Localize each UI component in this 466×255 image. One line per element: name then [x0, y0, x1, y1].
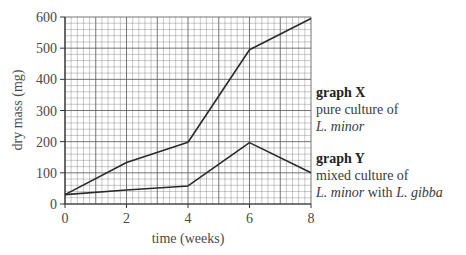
x-tick-label: 4 [185, 211, 192, 226]
legend-graph-x-species: L. minor [316, 119, 364, 134]
y-tick-label: 100 [36, 166, 57, 181]
legend-graph-y-title: graph Y [316, 150, 443, 167]
y-tick-label: 200 [36, 135, 57, 150]
x-tick-label: 0 [62, 211, 69, 226]
legend-graph-y-desc: mixed culture of [316, 167, 443, 184]
x-tick-label: 8 [308, 211, 315, 226]
x-tick-label: 6 [246, 211, 253, 226]
y-tick-label: 500 [36, 41, 57, 56]
x-axis-label: time (weeks) [152, 231, 225, 247]
y-tick-label: 300 [36, 104, 57, 119]
legend-graph-x: graph X pure culture of L. minor [316, 84, 398, 135]
y-tick-label: 600 [36, 10, 57, 25]
legend-graph-x-title: graph X [316, 84, 398, 101]
y-tick-label: 400 [36, 72, 57, 87]
legend-graph-y: graph Y mixed culture of L. minor with L… [316, 150, 443, 201]
y-axis-label: dry mass (mg) [10, 69, 26, 150]
y-tick-label: 0 [50, 197, 57, 212]
legend-graph-x-desc: pure culture of [316, 101, 398, 118]
legend-graph-y-species: L. minor with L. gibba [316, 184, 443, 201]
x-tick-label: 2 [123, 211, 130, 226]
